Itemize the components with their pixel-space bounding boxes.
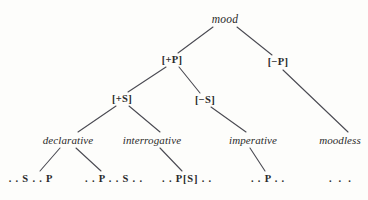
edge-interrogative-leaf-pbs [160, 148, 182, 171]
edge-pluss-declarative [78, 106, 116, 132]
edge-plusp-minuss [179, 67, 200, 93]
mood-tree-diagram: mood[+P][−P][+S][−S]declarativeinterroga… [0, 0, 368, 200]
edge-pluss-interrogative [129, 106, 160, 132]
tree-node-leaf-p: . . P . . [251, 174, 285, 185]
tree-node-imperative: imperative [229, 135, 277, 146]
tree-node-declarative: declarative [43, 135, 94, 146]
edge-plusp-pluss [128, 67, 166, 92]
edge-declarative-leaf-sp [40, 148, 60, 171]
edge-declarative-leaf-ps [76, 148, 101, 171]
tree-edge-layer [0, 0, 368, 200]
tree-node-root: mood [212, 14, 238, 26]
tree-node-minus-p: [−P] [268, 57, 289, 68]
tree-node-leaf-dots: . . . [329, 174, 353, 185]
edge-minuss-imperative [211, 107, 246, 132]
tree-node-leaf-ps: . . P . . S . . [85, 174, 143, 185]
tree-node-moodless: moodless [319, 135, 361, 146]
tree-node-interrogative: interrogative [123, 135, 181, 146]
edge-imperative-leaf-p [250, 148, 265, 171]
tree-node-plus-p: [+P] [162, 55, 183, 66]
tree-node-minus-s: [−S] [195, 95, 215, 106]
edge-minusp-moodless [283, 70, 348, 132]
edge-root-minusp [237, 27, 272, 55]
tree-node-plus-s: [+S] [112, 94, 132, 105]
tree-node-leaf-sp: . . S . . P [9, 174, 54, 185]
edge-root-plusp [178, 27, 213, 53]
tree-node-leaf-pbs: . . P[S] . . [162, 174, 212, 185]
